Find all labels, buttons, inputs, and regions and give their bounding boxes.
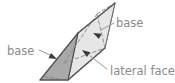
label-lateral-face: lateral face [110, 64, 175, 78]
triangular-prism-figure: base base lateral face [0, 0, 175, 83]
prism-illustration: base base lateral face [0, 0, 175, 83]
leader-line-lateral-face [90, 56, 107, 69]
prism-solid [40, 3, 115, 80]
label-base-left: base [7, 44, 34, 58]
label-base-right: base [116, 16, 143, 30]
